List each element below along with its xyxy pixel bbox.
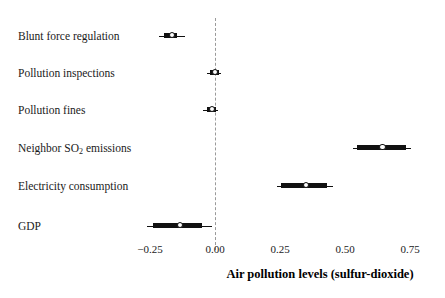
x-axis-title: Air pollution levels (sulfur-dioxide) <box>195 267 445 282</box>
category-label-row-2: Pollution fines <box>0 103 130 117</box>
category-label-text-post: emissions <box>83 142 131 154</box>
category-label-text: GDP <box>18 219 41 233</box>
category-label-row-1: Pollution inspections <box>0 66 130 80</box>
point-estimate-marker <box>209 106 216 113</box>
subscript-two: 2 <box>79 147 83 156</box>
category-label-text: Pollution fines <box>18 103 85 117</box>
x-tick-label-2: 0.25 <box>270 242 289 256</box>
point-estimate-marker <box>177 222 184 229</box>
category-label-text: Neighbor SO2 emissions <box>18 141 131 157</box>
x-tick-label-3: 0.50 <box>335 242 354 256</box>
plot-area: Blunt force regulation Pollution inspect… <box>0 0 445 240</box>
x-tick-label-0: −0.25 <box>137 242 162 256</box>
category-label-row-4: Electricity consumption <box>0 179 130 193</box>
x-tick-label-4: 0.75 <box>400 242 419 256</box>
category-label-text-pre: Neighbor SO <box>18 142 79 154</box>
category-label-text: Electricity consumption <box>18 179 128 193</box>
category-label-text: Pollution inspections <box>18 66 115 80</box>
category-label-text: Blunt force regulation <box>18 29 120 43</box>
x-tick-label-1: 0.00 <box>205 242 224 256</box>
coefficient-plot: Blunt force regulation Pollution inspect… <box>0 0 445 298</box>
category-label-row-3: Neighbor SO2 emissions <box>0 141 130 155</box>
category-label-row-0: Blunt force regulation <box>0 29 130 43</box>
x-axis: −0.25 0.00 0.25 0.50 0.75 Air pollution … <box>0 240 445 298</box>
zero-reference-line <box>215 18 216 250</box>
category-label-row-5: GDP <box>0 219 130 233</box>
point-estimate-marker <box>379 144 386 151</box>
